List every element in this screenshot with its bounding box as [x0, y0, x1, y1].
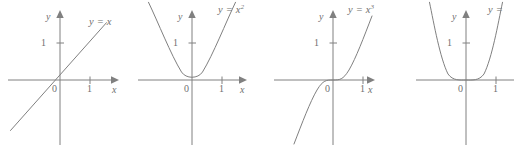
panel-3-x-tick-label: 1	[360, 84, 365, 94]
panel-3-origin-label: 0	[325, 84, 330, 94]
y-axis-arrow-icon	[188, 10, 195, 18]
panel-3-equation-exponent: 3	[371, 3, 375, 10]
panel-2-equation-exponent: 2	[241, 3, 245, 10]
panel-4-equation-label: y =	[488, 5, 503, 16]
panel-1-equation-text: y = x	[89, 16, 112, 27]
panel-3-equation-text: y = x	[348, 4, 371, 15]
panel-1-origin-label: 0	[52, 84, 57, 94]
y-axis-arrow-icon	[462, 10, 469, 18]
power-functions-figure: y x 0 1 1 y = x y x 0 1 1 y = x2	[0, 0, 514, 151]
panel-2-y-tick-label: 1	[173, 38, 178, 48]
panel-3-axes-and-curve	[256, 0, 384, 151]
panel-4-y-axis-label: y	[452, 12, 456, 22]
panel-1-x-tick-label: 1	[87, 84, 92, 94]
plot-panel-4: y 0 1 1 y =	[384, 0, 514, 151]
plot-panel-3: y x 0 1 1 y = x3	[256, 0, 384, 151]
panel-3-y-tick-label: 1	[314, 38, 319, 48]
panel-2-y-axis-label: y	[178, 12, 182, 22]
panel-4-y-tick-label: 1	[447, 38, 452, 48]
y-axis-arrow-icon	[56, 10, 63, 18]
panel-1-y-axis-label: y	[46, 12, 50, 22]
panel-2-equation-label: y = x2	[218, 5, 244, 16]
panel-2-origin-label: 0	[184, 84, 189, 94]
panel-4-equation-text: y =	[488, 4, 503, 15]
panel-1-equation-label: y = x	[89, 17, 112, 28]
panel-1-y-tick-label: 1	[41, 38, 46, 48]
panel-1-x-axis-label: x	[112, 85, 116, 95]
plot-panel-2: y x 0 1 1 y = x2	[128, 0, 256, 151]
panel-4-axes-and-curve	[384, 0, 514, 151]
curve-y-equals-x	[11, 23, 107, 131]
panel-3-equation-label: y = x3	[348, 5, 374, 16]
panel-2-axes-and-curve	[128, 0, 256, 151]
x-axis-arrow-icon	[111, 76, 119, 83]
y-axis-arrow-icon	[329, 10, 336, 18]
panel-3-x-axis-label: x	[368, 85, 372, 95]
plot-panel-1: y x 0 1 1 y = x	[0, 0, 128, 151]
panel-2-x-axis-label: x	[240, 85, 244, 95]
panel-2-x-tick-label: 1	[219, 84, 224, 94]
x-axis-arrow-icon	[239, 76, 247, 83]
panel-4-x-tick-label: 1	[493, 84, 498, 94]
panel-2-equation-text: y = x	[218, 4, 241, 15]
panel-4-origin-label: 0	[458, 84, 463, 94]
x-axis-arrow-icon	[367, 76, 375, 83]
panel-3-y-axis-label: y	[319, 12, 323, 22]
